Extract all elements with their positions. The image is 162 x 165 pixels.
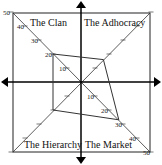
quadrant-label-adhocracy: The Adhocracy <box>84 17 145 28</box>
quadrant-label-clan: The Clan <box>30 17 67 28</box>
tick-label: 10 <box>59 65 67 73</box>
culture-quadrant-diagram: 10203040501020304050 The Clan The Adhocr… <box>0 0 162 165</box>
arrow-up-icon <box>76 1 86 8</box>
tick-label: 20 <box>101 107 109 115</box>
tick-label: 10 <box>87 93 95 101</box>
tick-label: 40 <box>17 23 25 31</box>
tick-label: 50 <box>3 9 11 17</box>
quadrant-label-hierarchy: The Hierarchy <box>24 139 82 150</box>
arrow-right-icon <box>154 77 161 87</box>
quadrant-label-market: The Market <box>85 139 132 150</box>
arrow-left-icon <box>1 77 8 87</box>
arrow-down-icon <box>76 157 86 164</box>
tick-label: 30 <box>31 37 39 45</box>
tick-label: 50 <box>143 149 151 157</box>
tick-label: 20 <box>45 51 53 59</box>
tick-label: 30 <box>115 121 123 129</box>
